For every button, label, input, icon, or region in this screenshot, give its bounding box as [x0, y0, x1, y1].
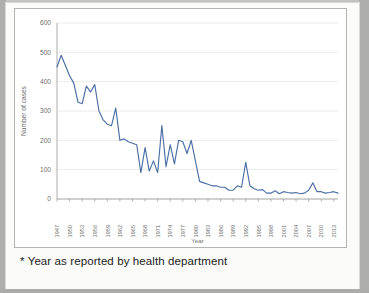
x-axis-tick-label: 1965 — [130, 225, 136, 237]
x-axis-tick-label: 1995 — [256, 225, 262, 237]
x-axis-tick-label: 1968 — [142, 225, 148, 237]
page-edge-bottom — [0, 289, 369, 293]
x-axis-tick-label: 1983 — [205, 225, 211, 237]
x-axis-tick-label: 1974 — [167, 225, 173, 237]
x-axis-title: Year — [191, 237, 204, 244]
y-axis-tick-label: 100 — [40, 166, 51, 173]
chart-series-line-0 — [57, 55, 338, 193]
y-axis-tick-label: 600 — [40, 19, 51, 26]
y-axis-tick-label: 300 — [40, 107, 51, 114]
x-axis-tick-label: 1977 — [180, 225, 186, 237]
x-axis-tick-label: 1989 — [230, 225, 236, 237]
x-axis-tick-label: 1962 — [117, 225, 123, 237]
x-axis-tick-label: 1971 — [155, 225, 161, 237]
plot-area: 0100200300400500600194719501953195619591… — [15, 9, 346, 247]
y-axis-tick-label: 200 — [40, 137, 51, 144]
x-axis-tick-label: 1986 — [218, 225, 224, 237]
chart-panel: 0100200300400500600194719501953195619591… — [14, 8, 347, 248]
x-axis-tick-label: 1947 — [54, 225, 60, 237]
x-axis-tick-label: 1956 — [92, 225, 98, 237]
x-axis-tick-label: 1980 — [193, 225, 199, 237]
x-axis-tick-label: 2013 — [331, 225, 337, 237]
line-chart: 0100200300400500600194719501953195619591… — [15, 9, 346, 247]
document-sheet: 0100200300400500600194719501953195619591… — [6, 3, 359, 289]
chart-footnote: * Year as reported by health department — [20, 255, 227, 267]
y-axis-tick-label: 0 — [47, 195, 51, 202]
page-background: 0100200300400500600194719501953195619591… — [0, 0, 369, 293]
y-axis-tick-label: 400 — [40, 78, 51, 85]
y-axis-tick-label: 500 — [40, 49, 51, 56]
x-axis-tick-label: 1959 — [105, 225, 111, 237]
x-axis-tick-label: 2007 — [306, 225, 312, 237]
x-axis-tick-label: 1992 — [243, 225, 249, 237]
x-axis-tick-label: 2004 — [293, 225, 299, 237]
x-axis-tick-label: 1998 — [268, 225, 274, 237]
y-axis-title: Number of cases — [20, 85, 27, 136]
x-axis-tick-label: 1953 — [79, 225, 85, 237]
x-axis-tick-label: 1950 — [67, 225, 73, 237]
x-axis-tick-label: 2010 — [318, 225, 324, 237]
page-edge-right — [359, 0, 369, 293]
x-axis-tick-label: 2001 — [281, 225, 287, 237]
